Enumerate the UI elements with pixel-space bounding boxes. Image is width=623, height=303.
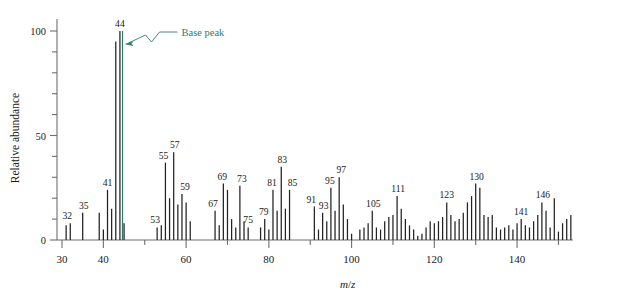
- peak-label: 73: [237, 173, 247, 184]
- base-peak-label: Base peak: [182, 27, 226, 38]
- x-tick-label: 40: [98, 253, 110, 265]
- peak-label: 97: [336, 164, 346, 175]
- peak-label: 32: [62, 210, 72, 221]
- peak-label: 69: [218, 171, 228, 182]
- x-tick-label: 120: [426, 253, 443, 265]
- peak-label: 35: [79, 200, 89, 211]
- peak-label: 79: [259, 206, 269, 217]
- x-tick-label: 30: [57, 253, 69, 265]
- peak-label: 95: [325, 175, 335, 186]
- peak-label: 141: [514, 206, 529, 217]
- y-tick-label: 100: [30, 26, 46, 37]
- peak-label: 81: [267, 177, 277, 188]
- peak-label: 83: [277, 154, 287, 165]
- x-tick-label: 60: [181, 253, 193, 265]
- mass-spectrum-figure: Relative abundance 050100304060801001201…: [0, 0, 623, 303]
- peak-label: 123: [440, 189, 455, 200]
- peak-label: 44: [115, 18, 125, 29]
- base-peak-annotation: Base peak: [126, 27, 226, 46]
- peak-label: 75: [243, 214, 253, 225]
- peak-label: 55: [159, 150, 169, 161]
- peak-label: 41: [103, 177, 113, 188]
- peak-labels-group: 3235414453555759676973757981838591939597…: [62, 18, 550, 225]
- peak-label: 67: [208, 198, 218, 209]
- x-axis-title-text: m/z: [340, 278, 356, 290]
- peak-label: 111: [391, 183, 405, 194]
- peak-label: 93: [319, 200, 329, 211]
- peak-label: 57: [170, 139, 180, 150]
- y-tick-label: 0: [41, 235, 46, 246]
- peak-label: 85: [288, 177, 298, 188]
- peak-label: 105: [366, 198, 381, 209]
- x-axis-title: m/z: [340, 278, 356, 290]
- spectrum-plot: 05010030406080100120140 3235414453555759…: [0, 0, 623, 303]
- x-tick-label: 140: [509, 253, 526, 265]
- peak-label: 91: [307, 194, 317, 205]
- y-tick-label: 50: [36, 131, 47, 142]
- peak-label: 146: [536, 189, 551, 200]
- x-tick-label: 80: [263, 253, 275, 265]
- peak-label: 53: [150, 214, 160, 225]
- peak-label: 130: [470, 171, 485, 182]
- x-tick-label: 100: [343, 253, 360, 265]
- peak-label: 59: [180, 181, 190, 192]
